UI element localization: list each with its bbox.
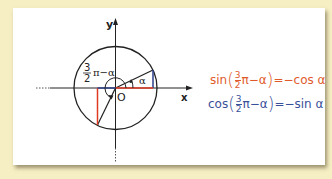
cos-func: cos <box>208 97 228 111</box>
x-axis-label: x <box>181 92 188 103</box>
y-axis-arrow-icon <box>113 18 118 25</box>
arg: π−α <box>243 97 268 111</box>
sin-func: sin <box>210 73 227 87</box>
big-angle-numerator: 3 <box>84 62 90 73</box>
big-angle-denominator: 2 <box>84 73 90 84</box>
origin-label: O <box>117 91 126 104</box>
alpha-label: α <box>139 75 146 86</box>
big-angle-rest: π−α <box>93 67 115 78</box>
arg: π−α <box>242 73 267 87</box>
rhs: =−cos α <box>273 73 325 87</box>
x-axis-arrow-icon <box>186 86 193 91</box>
fraction: 32 <box>236 95 242 114</box>
sin-formula: sin(32π−α)=−cos α <box>210 70 325 90</box>
y-axis-label: y <box>106 18 113 31</box>
cos-formula: cos(32π−α)=−sin α <box>208 94 323 114</box>
fraction: 32 <box>235 71 241 90</box>
rhs: =−sin α <box>274 97 323 111</box>
